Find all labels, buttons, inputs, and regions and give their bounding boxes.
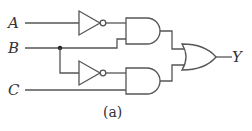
not-gate-2 xyxy=(79,61,106,85)
input-label-b: B xyxy=(7,39,19,57)
wire-and1-or xyxy=(160,31,186,49)
logic-circuit-diagram: A B C Y (a) xyxy=(0,0,252,131)
input-label-a: A xyxy=(6,14,19,32)
and-gate-2 xyxy=(126,68,160,94)
output-label-y: Y xyxy=(232,48,244,66)
wire-b xyxy=(25,39,126,48)
wire-and2-or xyxy=(160,65,186,81)
wire-b-branch xyxy=(60,48,79,73)
not-gate-1 xyxy=(79,11,106,35)
input-label-c: C xyxy=(8,81,20,99)
or-gate xyxy=(182,44,216,70)
and-gate-1 xyxy=(126,18,160,44)
figure-caption: (a) xyxy=(103,104,122,120)
